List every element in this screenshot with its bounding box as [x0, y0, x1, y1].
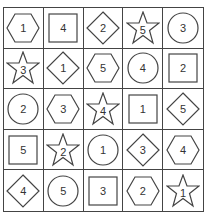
cell-number: 1	[123, 103, 162, 115]
grid-cell[interactable]: 5	[123, 8, 163, 49]
cell-number: 2	[4, 103, 43, 115]
cell-number: 1	[163, 186, 203, 198]
grid-cell[interactable]: 1	[163, 170, 203, 211]
cell-number: 5	[4, 144, 43, 156]
cell-number: 1	[44, 62, 83, 74]
cell-number: 2	[44, 145, 83, 157]
cell-number: 2	[163, 62, 203, 74]
cell-number: 3	[4, 64, 43, 76]
grid-cell[interactable]: 1	[4, 8, 44, 49]
grid-cell[interactable]: 5	[163, 89, 203, 130]
cell-number: 4	[123, 62, 162, 74]
grid-cell[interactable]: 5	[4, 130, 44, 171]
cell-number: 3	[84, 185, 123, 197]
cell-number: 4	[4, 185, 43, 197]
cell-number: 5	[84, 62, 123, 74]
cell-number: 5	[44, 185, 83, 197]
grid-cell[interactable]: 3	[163, 8, 203, 49]
grid-cell[interactable]: 2	[4, 89, 44, 130]
grid-cell[interactable]: 4	[44, 8, 84, 49]
puzzle-grid: 1425331542234155213445321	[3, 7, 204, 212]
cell-number: 1	[84, 144, 123, 156]
grid-cell[interactable]: 5	[84, 49, 124, 90]
cell-number: 5	[163, 103, 203, 115]
cell-number: 4	[163, 144, 203, 156]
grid-cell[interactable]: 4	[163, 130, 203, 171]
grid-cell[interactable]: 2	[123, 170, 163, 211]
cell-number: 5	[123, 24, 162, 36]
cell-number: 1	[4, 22, 43, 34]
grid-cell[interactable]: 3	[4, 49, 44, 90]
cell-number: 4	[44, 22, 83, 34]
cell-number: 3	[163, 22, 203, 34]
grid-cell[interactable]: 4	[123, 49, 163, 90]
cell-number: 2	[123, 185, 162, 197]
cell-number: 3	[123, 144, 162, 156]
grid-cell[interactable]: 5	[44, 170, 84, 211]
grid-cell[interactable]: 1	[123, 89, 163, 130]
cell-number: 4	[84, 105, 123, 117]
grid-cell[interactable]: 2	[84, 8, 124, 49]
grid-cell[interactable]: 4	[84, 89, 124, 130]
grid-cell[interactable]: 2	[44, 130, 84, 171]
grid-cell[interactable]: 3	[44, 89, 84, 130]
grid-cell[interactable]: 1	[44, 49, 84, 90]
cell-number: 3	[44, 103, 83, 115]
grid-cell[interactable]: 1	[84, 130, 124, 171]
cell-number: 2	[84, 22, 123, 34]
grid-cell[interactable]: 3	[84, 170, 124, 211]
grid-cell[interactable]: 4	[4, 170, 44, 211]
grid-cell[interactable]: 3	[123, 130, 163, 171]
grid-cell[interactable]: 2	[163, 49, 203, 90]
